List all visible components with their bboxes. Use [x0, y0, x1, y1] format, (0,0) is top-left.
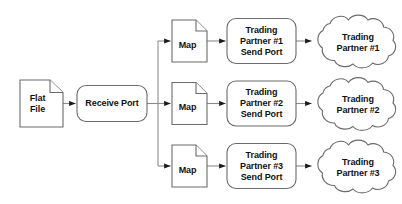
send-port-node-1[interactable] — [227, 19, 296, 64]
trading-partner-cloud-2[interactable] — [318, 78, 396, 131]
map-node-1[interactable] — [172, 20, 207, 62]
send-port-node-3[interactable] — [227, 144, 296, 189]
send-port-node-2[interactable] — [227, 81, 296, 126]
map-node-3[interactable] — [172, 145, 207, 187]
trading-partner-cloud-3[interactable] — [318, 140, 396, 193]
trading-partner-cloud-1[interactable] — [318, 15, 396, 68]
map-node-2[interactable] — [172, 83, 207, 125]
receive-port-node[interactable] — [77, 86, 147, 122]
flat-file-node[interactable] — [20, 80, 63, 127]
diagram-canvas — [0, 0, 402, 204]
flow-diagram: Flat File Receive Port Map Trading Partn… — [0, 0, 402, 204]
map-fold-icon — [196, 145, 207, 156]
